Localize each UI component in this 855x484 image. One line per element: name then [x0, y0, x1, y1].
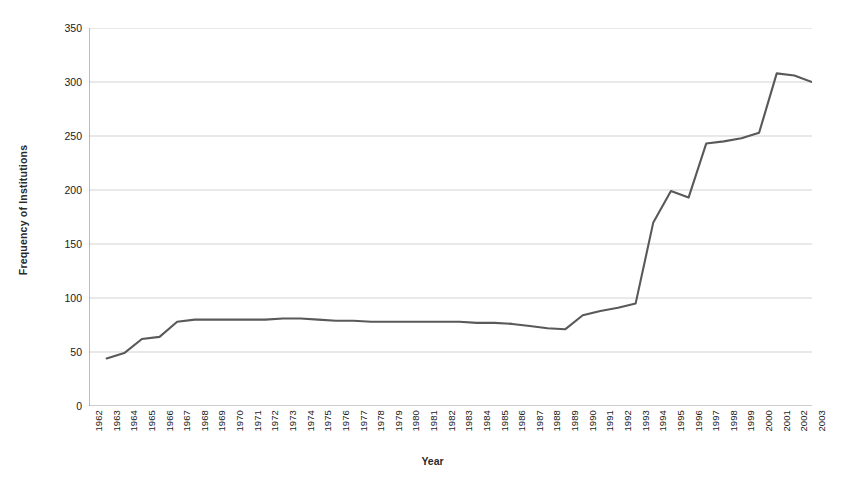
x-tick-label: 1991 [604, 410, 615, 432]
x-tick-label: 1978 [375, 410, 386, 432]
y-tick-label: 0 [30, 400, 82, 412]
x-tick-label: 1964 [128, 410, 139, 432]
x-tick-label: 1987 [534, 410, 545, 432]
x-tick-label: 1973 [287, 410, 298, 432]
x-axis-title: Year [0, 455, 855, 467]
x-tick-label: 2001 [781, 410, 792, 432]
x-axis-title-text: Year [421, 455, 443, 467]
x-tick-label: 1984 [481, 410, 492, 432]
x-tick-label: 1999 [745, 410, 756, 432]
x-tick-label: 2002 [798, 410, 809, 432]
x-tick-label: 1988 [551, 410, 562, 432]
x-tick-label: 1965 [146, 410, 157, 432]
x-tick-label: 1982 [446, 410, 457, 432]
y-tick-label: 150 [30, 238, 82, 250]
y-axis-tick-labels: 050100150200250300350 [24, 28, 82, 406]
chart-container: Frequency of Institutions 05010015020025… [0, 0, 855, 484]
x-tick-label: 1995 [675, 410, 686, 432]
x-tick-label: 1990 [587, 410, 598, 432]
y-tick-label: 50 [30, 346, 82, 358]
x-tick-label: 1996 [693, 410, 704, 432]
y-tick-label: 250 [30, 130, 82, 142]
x-tick-label: 1986 [516, 410, 527, 432]
x-tick-label: 1972 [269, 410, 280, 432]
plot-area [89, 28, 812, 406]
x-tick-label: 1975 [322, 410, 333, 432]
x-tick-label: 1983 [463, 410, 474, 432]
x-tick-label: 1980 [410, 410, 421, 432]
x-tick-label: 1963 [111, 410, 122, 432]
x-tick-label: 2003 [816, 410, 827, 432]
x-tick-label: 1981 [428, 410, 439, 432]
x-tick-label: 1968 [199, 410, 210, 432]
x-axis-tick-labels: 1962196319641965196619671968196919701971… [89, 410, 812, 456]
x-tick-label: 1992 [622, 410, 633, 432]
x-tick-label: 1962 [93, 410, 104, 432]
x-tick-label: 1977 [358, 410, 369, 432]
chart-plot-svg [89, 28, 812, 406]
x-tick-label: 1966 [164, 410, 175, 432]
x-tick-label: 1985 [499, 410, 510, 432]
x-tick-label: 1976 [340, 410, 351, 432]
x-tick-label: 1979 [393, 410, 404, 432]
x-tick-label: 1998 [728, 410, 739, 432]
gridlines [89, 28, 812, 406]
y-tick-label: 350 [30, 22, 82, 34]
x-tick-label: 1971 [252, 410, 263, 432]
y-tick-label: 300 [30, 76, 82, 88]
y-tick-label: 100 [30, 292, 82, 304]
data-series-line [107, 73, 812, 358]
y-tick-label: 200 [30, 184, 82, 196]
x-tick-label: 1967 [181, 410, 192, 432]
x-tick-label: 1994 [657, 410, 668, 432]
x-tick-label: 1993 [640, 410, 651, 432]
x-tick-label: 1970 [234, 410, 245, 432]
x-tick-label: 1974 [305, 410, 316, 432]
x-tick-label: 2000 [763, 410, 774, 432]
x-tick-label: 1969 [216, 410, 227, 432]
x-tick-label: 1989 [569, 410, 580, 432]
x-tick-label: 1997 [710, 410, 721, 432]
